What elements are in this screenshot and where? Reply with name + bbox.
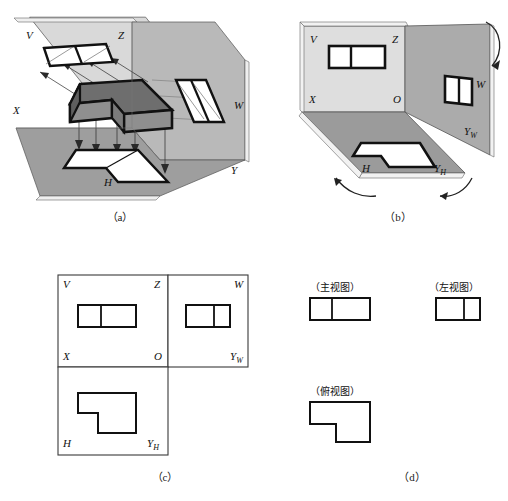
panel-a-label-z: Z (118, 29, 124, 41)
panel-c-svg (48, 265, 258, 465)
panel-a-label-w: W (234, 99, 243, 111)
rotation-arrow-h-left (336, 178, 376, 196)
panel-a-label-h: H (104, 176, 112, 188)
panel-d-caption: （d） (392, 468, 432, 484)
panel-c-label-yw-sub: W (236, 356, 243, 365)
panel-a-label-x: X (13, 104, 20, 116)
d-left-view-shape (436, 298, 480, 320)
panel-c-label-h: H (63, 437, 71, 449)
panel-b-label-h: H (362, 162, 370, 174)
panel-c-label-v: V (63, 278, 70, 290)
c-left-view-shape (186, 305, 230, 327)
v-plane-top-edge (300, 22, 408, 26)
w-projection-left-view (445, 76, 472, 105)
rotation-arrow-h-right-head (440, 192, 448, 200)
panel-a-caption: （a） (100, 208, 140, 224)
h-plane-bottom-edge (359, 173, 465, 178)
panel-b-svg (258, 0, 508, 205)
panel-b-caption: （b） (378, 208, 418, 224)
panel-b-label-yw-sub: W (470, 131, 477, 140)
w-plane-right-edge (490, 24, 494, 157)
d-left-view-label: （左视图） (429, 279, 479, 294)
panel-b-label-x: X (309, 93, 316, 105)
panel-a-pictorial-projection: V Z X W H Y (0, 0, 258, 205)
w-plane-edge (245, 60, 249, 162)
h-plane-edge (36, 196, 160, 200)
panel-b-label-v: V (310, 33, 317, 45)
panel-c-label-yh-sub: H (153, 443, 159, 452)
panel-c-unfolded-projection: V Z W X O YW H YH (48, 265, 258, 465)
solid-front-right-face (124, 110, 172, 132)
panel-b-label-o: O (393, 93, 401, 105)
v-plane-edge (14, 18, 137, 22)
panel-b-label-yw: YW (464, 125, 477, 140)
rotation-arrow-h-left-head (334, 178, 342, 186)
panel-c-label-w: W (234, 278, 243, 290)
v-projection-front-view (329, 46, 385, 68)
panel-b-label-yh-sub: H (440, 168, 446, 177)
panel-c-label-yh: YH (147, 437, 159, 452)
panel-c-caption: （c） (145, 468, 185, 484)
v-projection-front-view (44, 44, 113, 66)
v-plane-left-edge (300, 22, 304, 114)
panel-a-label-y: Y (231, 164, 237, 176)
panel-b-label-z: Z (392, 33, 398, 45)
rotation-arrow-h-right (440, 178, 472, 196)
d-top-view-label: （俯视图） (310, 383, 360, 398)
d-top-view-shape (310, 402, 370, 442)
panel-a-label-v: V (26, 29, 33, 41)
panel-b-label-yh: YH (434, 162, 446, 177)
panel-c-label-x: X (63, 350, 70, 362)
panel-b-label-w: W (476, 78, 485, 90)
panel-d-three-views: （主视图） （左视图） （俯视图） (290, 272, 508, 462)
panel-c-label-o: O (154, 350, 162, 362)
panel-c-label-z: Z (154, 278, 160, 290)
d-front-view-label: （主视图） (310, 279, 360, 294)
panel-b-unfolding: V Z X O W YW H YH (258, 0, 508, 205)
c-front-view-shape (78, 305, 136, 327)
panel-c-label-yw: YW (230, 350, 243, 365)
panel-a-svg (0, 0, 258, 205)
panel-d-svg (290, 272, 508, 462)
d-front-view-shape (310, 298, 370, 320)
